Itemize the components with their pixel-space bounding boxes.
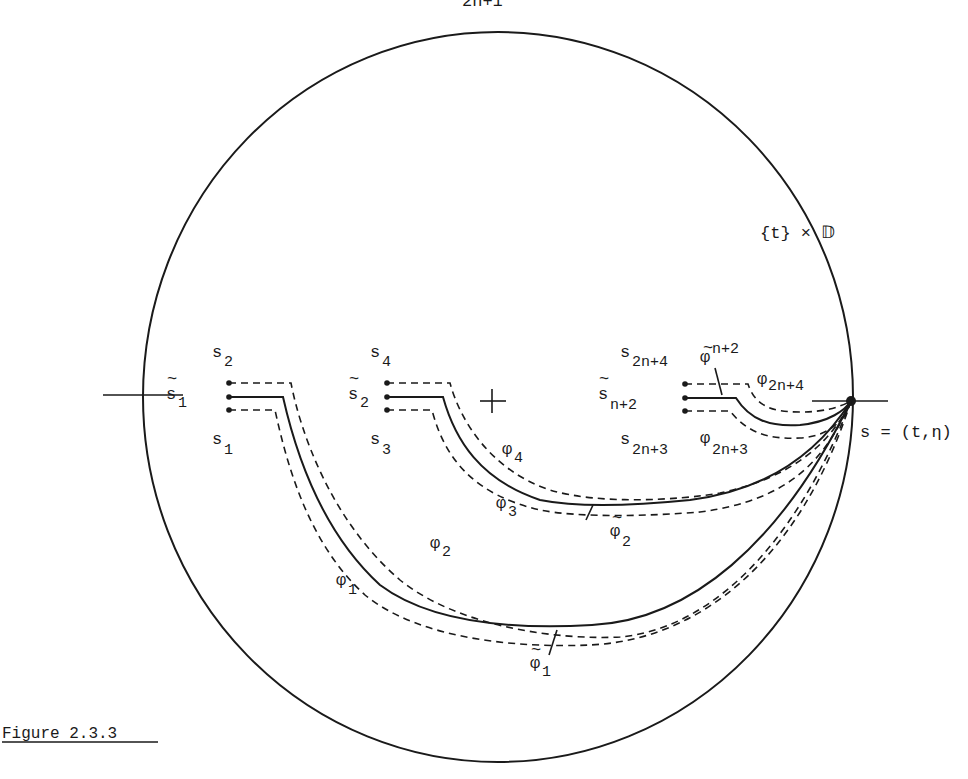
figure-caption: Figure 2.3.3 bbox=[2, 725, 117, 743]
svg-text:s: s bbox=[370, 430, 380, 449]
path-phi3 bbox=[387, 401, 851, 516]
svg-text:n+2: n+2 bbox=[610, 397, 637, 414]
svg-text:2: 2 bbox=[442, 544, 451, 561]
svg-text:1: 1 bbox=[178, 395, 187, 412]
header-fragment: 2n+1 bbox=[462, 0, 503, 11]
label-s3: s 3 bbox=[370, 430, 391, 459]
label-phi2: φ 2 bbox=[430, 534, 451, 561]
svg-text:φ: φ bbox=[430, 534, 440, 553]
label-tilde-phi1: ~ φ 1 bbox=[530, 641, 551, 681]
label-s1: s 1 bbox=[212, 430, 233, 459]
svg-text:2n+4: 2n+4 bbox=[768, 378, 804, 395]
path-tilde-phi1 bbox=[229, 397, 851, 626]
tick-tilde-phi1 bbox=[549, 630, 557, 655]
svg-text:s: s bbox=[212, 343, 222, 362]
center-cross-marker bbox=[480, 389, 506, 413]
label-s2n3: s 2n+3 bbox=[620, 430, 668, 459]
label-s2n4: s 2n+4 bbox=[620, 343, 668, 371]
svg-text:n+2: n+2 bbox=[712, 341, 739, 358]
tick-tilde-phi2 bbox=[586, 505, 593, 520]
label-tilde-s2: ~ s 2 bbox=[348, 370, 369, 412]
label-phi3: φ 3 bbox=[496, 494, 517, 521]
svg-text:φ: φ bbox=[610, 522, 620, 541]
svg-text:1: 1 bbox=[224, 442, 233, 459]
tick-tilde-phin2 bbox=[715, 368, 722, 395]
label-s2: s 2 bbox=[212, 343, 233, 371]
svg-text:φ: φ bbox=[496, 494, 506, 513]
label-tilde-sn2: ~ s n+2 bbox=[598, 370, 637, 414]
svg-text:s: s bbox=[348, 385, 358, 404]
svg-text:2n+3: 2n+3 bbox=[712, 442, 748, 459]
svg-text:2n+4: 2n+4 bbox=[632, 354, 668, 371]
svg-text:φ: φ bbox=[757, 370, 767, 389]
figure-canvas: 2n+1 bbox=[0, 0, 968, 779]
svg-text:2: 2 bbox=[622, 534, 631, 551]
svg-text:s: s bbox=[598, 385, 608, 404]
label-tilde-phin2: ~ φ n+2 bbox=[700, 339, 739, 367]
svg-text:2n+3: 2n+3 bbox=[632, 442, 668, 459]
svg-text:2: 2 bbox=[360, 395, 369, 412]
svg-text:φ: φ bbox=[336, 571, 346, 590]
svg-text:s: s bbox=[166, 385, 176, 404]
svg-text:s: s bbox=[620, 430, 630, 449]
label-phi4: φ 4 bbox=[502, 440, 523, 467]
svg-text:s: s bbox=[370, 343, 380, 362]
svg-text:φ: φ bbox=[502, 440, 512, 459]
svg-text:4: 4 bbox=[382, 354, 391, 371]
label-phi1: φ 1 bbox=[336, 571, 357, 599]
label-tilde-s1: ~ s 1 bbox=[166, 370, 187, 412]
svg-text:φ: φ bbox=[700, 348, 710, 367]
svg-text:1: 1 bbox=[542, 664, 551, 681]
svg-text:φ: φ bbox=[530, 654, 540, 673]
path-phi1 bbox=[229, 401, 851, 646]
svg-text:φ: φ bbox=[700, 429, 710, 448]
svg-text:s: s bbox=[212, 430, 222, 449]
svg-text:2: 2 bbox=[224, 354, 233, 371]
label-phi2n3: φ 2n+3 bbox=[700, 429, 748, 459]
svg-text:3: 3 bbox=[382, 442, 391, 459]
label-s4: s 4 bbox=[370, 343, 391, 371]
base-point-label: s = (t,η) bbox=[860, 423, 952, 442]
svg-text:3: 3 bbox=[508, 504, 517, 521]
label-phi2n4: φ 2n+4 bbox=[757, 370, 804, 395]
svg-text:4: 4 bbox=[514, 450, 523, 467]
svg-text:1: 1 bbox=[348, 582, 357, 599]
svg-text:s: s bbox=[620, 343, 630, 362]
disk-label: {t} × 𝔻 bbox=[760, 224, 835, 243]
